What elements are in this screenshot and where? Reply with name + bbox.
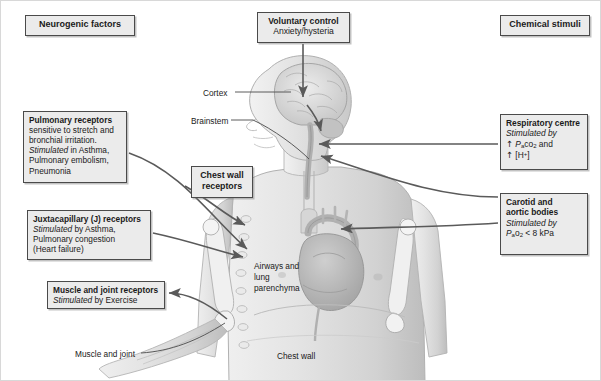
box-pulmonary-receptors[interactable]: Pulmonary receptors sensitive to stretch…: [23, 111, 127, 183]
box-muscle-line1-italic: Stimulated: [53, 295, 92, 305]
hplus-text: [H: [515, 150, 523, 160]
box-pulmonary-line2: bronchial irritation.: [29, 135, 121, 145]
box-juxtacapillary-line1: Stimulated by Asthma,: [33, 224, 145, 234]
box-respiratory-centre[interactable]: Respiratory centre Stimulated by ↑ Paco2…: [500, 114, 588, 170]
box-carotid-title-line2: aortic bodies: [506, 207, 582, 217]
box-pulmonary-title: Pulmonary receptors: [29, 115, 121, 125]
box-pulmonary-line3-rest: in Asthma,: [68, 145, 109, 155]
box-juxtacapillary-line1-italic: Stimulated: [33, 224, 72, 234]
box-pulmonary-line3: Stimulated in Asthma,: [29, 145, 121, 155]
box-voluntary-title: Voluntary control: [263, 16, 344, 26]
paco2-symbol-co: co: [524, 139, 533, 149]
box-pulmonary-line3-italic: Stimulated: [29, 145, 68, 155]
label-airways-and-lung-parenchyma: Airways and lung parenchyma: [254, 261, 314, 293]
box-muscle-line1: Stimulated by Exercise: [53, 295, 159, 305]
body-silhouette: [99, 56, 447, 381]
box-respiratory-centre-line2: ↑ Paco2 and: [506, 139, 582, 151]
box-muscle-line1-rest: by Exercise: [92, 295, 137, 305]
box-muscle-title: Muscle and joint receptors: [53, 285, 159, 295]
box-juxtacapillary-title: Juxtacapillary (J) receptors: [33, 214, 145, 224]
up-arrow-icon: ↑: [506, 139, 513, 149]
box-chemical-stimuli[interactable]: Chemical stimuli: [500, 15, 590, 36]
box-chestwall-title-line2: receptors: [197, 181, 247, 192]
box-juxtacapillary-line3: (Heart failure): [33, 244, 145, 254]
box-carotid-line2: Pao2 < 8 kPa: [506, 228, 582, 240]
box-chestwall-title-line1: Chest wall: [197, 170, 247, 181]
box-neurogenic-factors[interactable]: Neurogenic factors: [25, 15, 135, 36]
box-pulmonary-line4: Pulmonary embolism,: [29, 155, 121, 165]
box-respiratory-centre-line3: ↑ [H+]: [506, 150, 582, 160]
up-arrow-icon-2: ↑: [506, 150, 513, 160]
paco2-tail: and: [537, 139, 553, 149]
label-chest-wall: Chest wall: [277, 351, 315, 362]
box-voluntary-control[interactable]: Voluntary control Anxiety/hysteria: [257, 12, 350, 43]
ventilation-control-figure: Neurogenic factors Chemical stimuli Volu…: [0, 0, 601, 381]
anatomy-illustration: [1, 1, 601, 381]
box-juxtacapillary-line1-rest: by Asthma,: [72, 224, 115, 234]
box-carotid-and-aortic-bodies[interactable]: Carotid and aortic bodies Stimulated by …: [500, 193, 588, 255]
box-juxtacapillary-line2: Pulmonary congestion: [33, 234, 145, 244]
box-voluntary-line1: Anxiety/hysteria: [263, 26, 344, 36]
hplus-tail: ]: [527, 150, 529, 160]
pao2-tail: < 8 kPa: [523, 228, 554, 238]
label-brainstem: Brainstem: [191, 116, 228, 127]
box-chemical-title: Chemical stimuli: [506, 19, 584, 30]
box-pulmonary-line5: Pneumonia: [29, 166, 121, 176]
box-carotid-line1: Stimulated by: [506, 218, 582, 228]
box-juxtacapillary-receptors[interactable]: Juxtacapillary (J) receptors Stimulated …: [27, 210, 151, 260]
box-chest-wall-receptors[interactable]: Chest wall receptors: [191, 166, 253, 198]
label-muscle-and-joint: Muscle and joint: [75, 349, 135, 360]
box-pulmonary-line1: sensitive to stretch and: [29, 125, 121, 135]
box-respiratory-centre-title: Respiratory centre: [506, 118, 582, 128]
box-carotid-title-line1: Carotid and: [506, 197, 582, 207]
box-muscle-and-joint-receptors[interactable]: Muscle and joint receptors Stimulated by…: [47, 281, 165, 309]
box-neurogenic-title: Neurogenic factors: [31, 19, 129, 30]
label-cortex: Cortex: [203, 88, 227, 99]
box-respiratory-centre-line1: Stimulated by: [506, 128, 582, 138]
